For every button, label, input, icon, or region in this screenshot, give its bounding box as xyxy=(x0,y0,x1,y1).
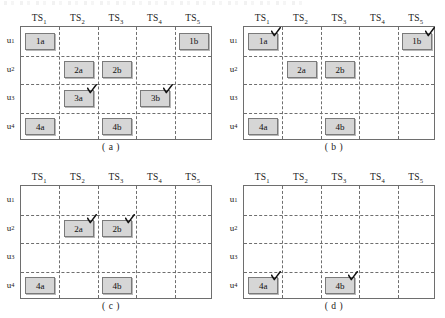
panel-b: TS1TS2TS3TS4TS5u1u2u3u41a1b2a2b4a4b( b ) xyxy=(223,0,445,159)
column-header-base: TS xyxy=(109,13,121,23)
row-label-u4: u4 xyxy=(225,271,242,300)
grid-vertical-line xyxy=(136,186,137,298)
row-label-index: 1 xyxy=(11,196,14,203)
task-box-2a[interactable]: 2a xyxy=(287,61,317,78)
grid-horizontal-line xyxy=(21,84,211,85)
check-icon xyxy=(163,84,173,95)
task-box-label: 4b xyxy=(336,281,345,291)
grid-vertical-line xyxy=(398,27,399,139)
column-header-index: 1 xyxy=(266,177,270,184)
task-box-label: 1b xyxy=(412,36,421,46)
row-label-u1: u1 xyxy=(2,26,19,55)
row-label-u3: u3 xyxy=(2,242,19,271)
column-header-base: TS xyxy=(70,172,82,182)
task-box-label: 4b xyxy=(336,122,345,132)
row-label-u1: u1 xyxy=(225,26,242,55)
column-header-index: 1 xyxy=(266,18,270,25)
grid-horizontal-line xyxy=(21,56,211,57)
column-header-index: 3 xyxy=(343,18,347,25)
row-label-index: 3 xyxy=(11,253,14,260)
grid-horizontal-line xyxy=(244,113,434,114)
task-box-4b[interactable]: 4b xyxy=(102,118,132,135)
schedule-grid: 4a4b xyxy=(243,185,435,299)
column-header-base: TS xyxy=(185,13,197,23)
task-box-4b[interactable]: 4b xyxy=(102,277,132,294)
check-icon xyxy=(425,27,435,38)
grid-vertical-line xyxy=(359,186,360,298)
task-box-4a[interactable]: 4a xyxy=(248,118,278,135)
row-label-u2: u2 xyxy=(2,214,19,243)
task-box-label: 3b xyxy=(151,93,160,103)
column-header-base: TS xyxy=(332,172,344,182)
task-box-3a[interactable]: 3a xyxy=(64,90,94,107)
grid-horizontal-line xyxy=(244,84,434,85)
task-box-2b[interactable]: 2b xyxy=(102,220,132,237)
grid-horizontal-line xyxy=(21,272,211,273)
column-header-index: 4 xyxy=(381,18,385,25)
row-label-column: u1u2u3u4 xyxy=(225,185,242,299)
column-header-ts3: TS3 xyxy=(320,11,358,25)
task-box-4a[interactable]: 4a xyxy=(25,277,55,294)
column-header-base: TS xyxy=(408,13,420,23)
task-box-1a[interactable]: 1a xyxy=(25,33,55,50)
panel-caption-b: ( b ) xyxy=(223,142,445,152)
check-icon xyxy=(271,271,281,282)
row-label-index: 3 xyxy=(234,253,237,260)
column-header-row: TS1TS2TS3TS4TS5 xyxy=(20,11,212,25)
grid-horizontal-line xyxy=(244,215,434,216)
row-label-index: 1 xyxy=(11,37,14,44)
check-icon xyxy=(87,84,97,95)
column-header-index: 3 xyxy=(120,18,124,25)
row-label-column: u1u2u3u4 xyxy=(2,185,19,299)
column-header-ts1: TS1 xyxy=(20,11,58,25)
task-box-1b[interactable]: 1b xyxy=(179,33,209,50)
task-box-4a[interactable]: 4a xyxy=(25,118,55,135)
row-label-u1: u1 xyxy=(225,185,242,214)
column-header-base: TS xyxy=(70,13,82,23)
row-label-index: 3 xyxy=(11,94,14,101)
row-label-column: u1u2u3u4 xyxy=(2,26,19,140)
grid-horizontal-line xyxy=(21,243,211,244)
row-label-index: 2 xyxy=(11,65,14,72)
row-label-index: 2 xyxy=(234,65,237,72)
row-label-u4: u4 xyxy=(225,112,242,141)
column-header-base: TS xyxy=(32,172,44,182)
row-label-u3: u3 xyxy=(225,83,242,112)
column-header-index: 5 xyxy=(197,177,201,184)
column-header-ts1: TS1 xyxy=(20,170,58,184)
column-header-index: 3 xyxy=(120,177,124,184)
check-icon xyxy=(87,214,97,225)
check-icon xyxy=(125,214,135,225)
row-label-u2: u2 xyxy=(225,214,242,243)
task-box-3b[interactable]: 3b xyxy=(140,90,170,107)
column-header-ts2: TS2 xyxy=(58,170,96,184)
column-header-base: TS xyxy=(255,13,267,23)
task-box-2b[interactable]: 2b xyxy=(102,61,132,78)
task-box-4b[interactable]: 4b xyxy=(325,277,355,294)
task-box-4a[interactable]: 4a xyxy=(248,277,278,294)
task-box-4b[interactable]: 4b xyxy=(325,118,355,135)
task-box-2a[interactable]: 2a xyxy=(64,220,94,237)
panel-d: TS1TS2TS3TS4TS5u1u2u3u44a4b( d ) xyxy=(223,159,445,318)
column-header-index: 4 xyxy=(158,18,162,25)
task-box-2b[interactable]: 2b xyxy=(325,61,355,78)
row-label-index: 3 xyxy=(234,94,237,101)
task-box-1b[interactable]: 1b xyxy=(402,33,432,50)
row-label-index: 4 xyxy=(234,122,237,129)
task-box-label: 2a xyxy=(297,65,306,75)
column-header-ts1: TS1 xyxy=(243,170,281,184)
task-box-1a[interactable]: 1a xyxy=(248,33,278,50)
row-label-u4: u4 xyxy=(2,112,19,141)
task-box-label: 4b xyxy=(113,281,122,291)
column-header-ts5: TS5 xyxy=(397,170,435,184)
task-box-2a[interactable]: 2a xyxy=(64,61,94,78)
task-box-label: 2b xyxy=(336,65,345,75)
panel-a: TS1TS2TS3TS4TS5u1u2u3u41a1b2a2b3a3b4a4b(… xyxy=(0,0,222,159)
column-header-index: 5 xyxy=(420,177,424,184)
column-header-base: TS xyxy=(32,13,44,23)
column-header-base: TS xyxy=(147,172,159,182)
grid-vertical-line xyxy=(282,186,283,298)
grid-horizontal-line xyxy=(244,272,434,273)
column-header-base: TS xyxy=(370,172,382,182)
column-header-index: 4 xyxy=(158,177,162,184)
